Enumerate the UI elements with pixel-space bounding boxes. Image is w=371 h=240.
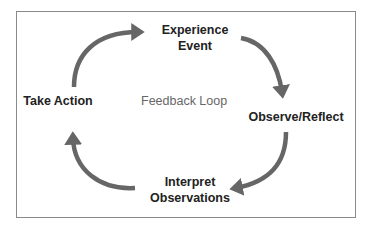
arrow-interpret-to-action <box>73 138 135 188</box>
arrow-observe-to-interpret <box>236 132 286 188</box>
node-label-line: Observe/Reflect <box>246 109 346 125</box>
node-label-line: Event <box>158 38 232 54</box>
node-experience-event: Experience Event <box>158 22 232 54</box>
node-label-line: Interpret <box>148 174 232 190</box>
node-label-line: Experience <box>158 22 232 38</box>
arrow-action-to-experience <box>74 32 138 87</box>
arrow-experience-to-observe <box>241 38 282 92</box>
node-observe-reflect: Observe/Reflect <box>246 109 346 125</box>
node-interpret-observations: Interpret Observations <box>148 174 232 206</box>
node-label-line: Take Action <box>22 93 94 109</box>
node-label-line: Observations <box>148 190 232 206</box>
diagram-title: Feedback Loop <box>141 94 227 108</box>
node-take-action: Take Action <box>22 93 94 109</box>
